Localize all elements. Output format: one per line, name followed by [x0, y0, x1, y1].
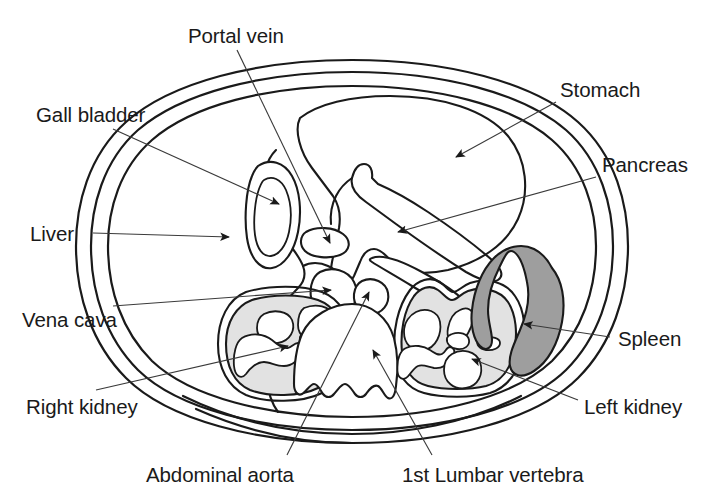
label-vena-cava: Vena cava [22, 308, 118, 331]
label-right-kidney: Right kidney [26, 395, 138, 418]
label-left-kidney: Left kidney [584, 395, 683, 418]
label-gall-bladder: Gall bladder [36, 103, 146, 126]
label-liver: Liver [30, 222, 74, 245]
label-portal-vein: Portal vein [188, 24, 284, 47]
leader-liver [93, 233, 229, 237]
label-abdominal-aorta: Abdominal aorta [146, 463, 294, 486]
label-stomach: Stomach [560, 78, 640, 101]
left-kidney [394, 279, 524, 397]
anatomy-figure: Portal vein Gall bladder Liver Vena cava… [0, 0, 704, 504]
leader-gall-bladder [113, 129, 279, 204]
abdominal-cross-section-diagram: Portal vein Gall bladder Liver Vena cava… [0, 0, 704, 504]
gall-bladder [246, 162, 300, 268]
label-spleen: Spleen [618, 327, 681, 350]
label-pancreas: Pancreas [602, 153, 688, 176]
label-first-lumbar-vertebra: 1st Lumbar vertebra [402, 463, 584, 486]
